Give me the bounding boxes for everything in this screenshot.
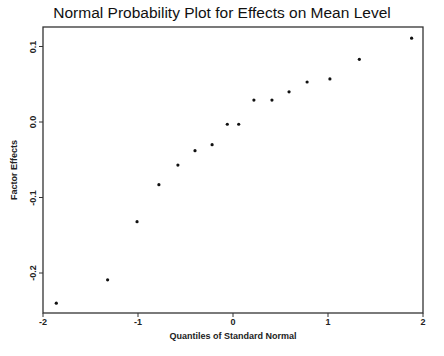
plot-frame bbox=[43, 27, 423, 313]
data-point bbox=[270, 99, 273, 102]
data-point bbox=[306, 80, 309, 83]
data-point bbox=[55, 302, 58, 305]
data-point bbox=[193, 149, 196, 152]
data-point bbox=[252, 99, 255, 102]
data-point bbox=[410, 37, 413, 40]
x-tick-label: -1 bbox=[134, 317, 142, 327]
data-point bbox=[157, 183, 160, 186]
data-point bbox=[237, 123, 240, 126]
data-point bbox=[211, 143, 214, 146]
y-axis-label-text: Factor Effects bbox=[9, 140, 19, 200]
x-tick-label: 1 bbox=[325, 317, 330, 327]
x-tick-label: 0 bbox=[230, 317, 235, 327]
x-tick-label: -2 bbox=[39, 317, 47, 327]
plot-area bbox=[0, 0, 444, 356]
data-point bbox=[287, 90, 290, 93]
x-tick-label: 2 bbox=[420, 317, 425, 327]
data-point bbox=[328, 77, 331, 80]
data-point bbox=[106, 278, 109, 281]
data-points bbox=[55, 37, 414, 305]
x-axis-label: Quantiles of Standard Normal bbox=[43, 331, 423, 341]
data-point bbox=[135, 220, 138, 223]
data-point bbox=[226, 123, 229, 126]
data-point bbox=[176, 163, 179, 166]
data-point bbox=[358, 58, 361, 61]
